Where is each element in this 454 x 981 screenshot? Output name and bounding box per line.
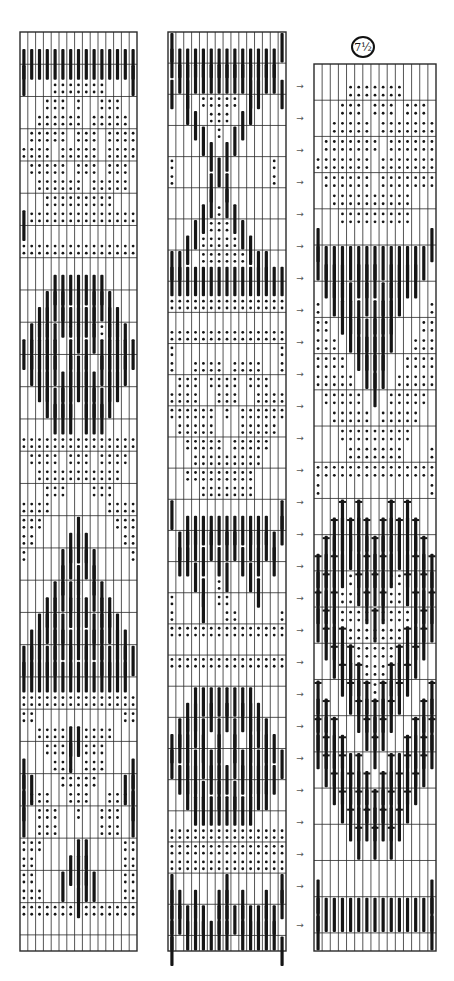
cross-mark	[420, 754, 427, 756]
dot-mark	[390, 438, 393, 441]
dot-mark	[186, 431, 189, 434]
dot-mark	[132, 220, 135, 223]
dot-mark	[357, 202, 360, 205]
dot-mark	[108, 728, 111, 731]
dot-mark	[124, 139, 127, 142]
dot-mark	[406, 112, 409, 115]
dot-mark	[77, 180, 80, 183]
dot-mark	[46, 461, 49, 464]
dot-mark	[281, 634, 284, 637]
dot-mark	[349, 166, 352, 169]
dot-mark	[85, 220, 88, 223]
dot-mark	[257, 456, 260, 459]
dot-mark	[325, 184, 328, 187]
bar-mark	[382, 898, 385, 932]
dot-mark	[77, 83, 80, 86]
dot-mark	[349, 637, 352, 640]
dot-mark	[422, 176, 425, 179]
dot-mark	[54, 454, 57, 457]
dot-mark	[273, 338, 276, 341]
dot-mark	[194, 409, 197, 412]
dot-mark	[382, 629, 385, 632]
weaving-pattern-diagram: →→→→→→→→→→→→→→→→→→→→→→→→→→→	[0, 0, 454, 981]
dot-mark	[281, 852, 284, 855]
dot-mark	[257, 836, 260, 839]
bar-mark	[430, 735, 433, 769]
dot-mark	[406, 166, 409, 169]
dot-mark	[77, 454, 80, 457]
dot-mark	[62, 445, 65, 448]
dot-mark	[333, 158, 336, 161]
bar-mark	[85, 597, 88, 628]
dot-mark	[62, 761, 65, 764]
dot-mark	[23, 155, 26, 158]
dot-mark	[414, 365, 417, 368]
dot-mark	[171, 852, 174, 855]
dot-mark	[93, 187, 96, 190]
dot-mark	[233, 494, 236, 497]
dot-mark	[218, 206, 221, 209]
dot-mark	[365, 438, 368, 441]
dot-mark	[281, 393, 284, 396]
dot-mark	[325, 394, 328, 397]
cross-mark	[372, 827, 379, 829]
dot-mark	[101, 487, 104, 490]
dot-mark	[116, 816, 119, 819]
dot-mark	[349, 593, 352, 596]
dot-mark	[124, 212, 127, 215]
bar-mark	[365, 807, 368, 841]
dot-mark	[241, 494, 244, 497]
dot-mark	[101, 123, 104, 126]
dot-mark	[226, 400, 229, 403]
dot-mark	[132, 252, 135, 255]
dot-mark	[398, 611, 401, 614]
dot-mark	[341, 412, 344, 415]
dot-mark	[357, 647, 360, 650]
bar-mark	[382, 246, 385, 280]
dot-mark	[414, 383, 417, 386]
dot-mark	[406, 412, 409, 415]
dot-mark	[414, 176, 417, 179]
dot-mark	[257, 409, 260, 412]
cross-mark	[355, 501, 362, 503]
dot-mark	[186, 634, 189, 637]
cross-mark	[355, 827, 362, 829]
dot-mark	[124, 535, 127, 538]
bar-mark	[194, 531, 197, 561]
dot-mark	[186, 665, 189, 668]
dot-mark	[85, 461, 88, 464]
dot-mark	[186, 836, 189, 839]
dot-mark	[202, 447, 205, 450]
dot-mark	[23, 438, 26, 441]
dot-mark	[333, 122, 336, 125]
dot-mark	[38, 800, 41, 803]
dot-mark	[374, 194, 377, 197]
dot-mark	[333, 140, 336, 143]
dot-mark	[93, 784, 96, 787]
dot-mark	[406, 474, 409, 477]
dot-mark	[124, 800, 127, 803]
dot-mark	[171, 861, 174, 864]
dot-mark	[38, 503, 41, 506]
dot-mark	[226, 260, 229, 263]
bar-mark	[273, 734, 276, 764]
dot-mark	[132, 519, 135, 522]
bar-mark	[341, 300, 344, 334]
dot-mark	[249, 462, 252, 465]
dot-mark	[317, 365, 320, 368]
dot-mark	[357, 86, 360, 89]
dot-mark	[218, 440, 221, 443]
dot-mark	[390, 647, 393, 650]
dot-mark	[341, 611, 344, 614]
dot-mark	[210, 447, 213, 450]
dot-mark	[46, 212, 49, 215]
dot-mark	[202, 462, 205, 465]
dot-mark	[317, 383, 320, 386]
dot-mark	[431, 184, 434, 187]
bar-mark	[108, 662, 111, 693]
dot-mark	[62, 100, 65, 103]
dot-mark	[422, 184, 425, 187]
cross-mark	[363, 682, 370, 684]
dot-mark	[317, 484, 320, 487]
dot-mark	[178, 307, 181, 310]
